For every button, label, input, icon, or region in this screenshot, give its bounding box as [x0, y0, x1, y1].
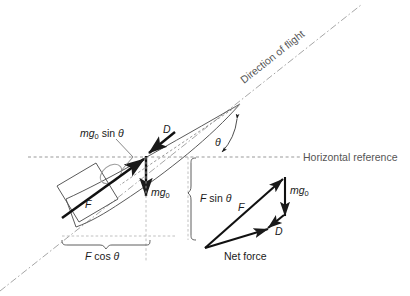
force-diagram-figure: Direction of flight Horizontal reference…	[0, 0, 410, 296]
f-cos-theta-cos: cos	[91, 250, 113, 262]
svg-text:F sin θ: F sin θ	[200, 192, 232, 204]
horizontal-reference-label: Horizontal reference	[303, 151, 398, 163]
brace-horizontal-icon	[62, 240, 150, 249]
mg-sin-theta-label: mg0 sin θ	[80, 127, 124, 141]
svg-text:Horizontal reference: Horizontal reference	[303, 151, 398, 163]
f-sin-theta-sin: sin	[206, 192, 225, 204]
thrust-label: F	[85, 198, 92, 210]
svg-text:Net force: Net force	[224, 250, 267, 262]
net-force-text: Net force	[224, 250, 267, 262]
svg-text:F: F	[238, 201, 245, 213]
net-weight-mg: mg	[290, 184, 305, 196]
mg-sin-theta-sin: sin	[99, 127, 118, 139]
drag-label: D	[163, 123, 171, 135]
weight-subscript: 0	[166, 191, 170, 200]
horizontal-reference-text: Horizontal reference	[303, 151, 398, 163]
thrust-vector-F	[62, 159, 144, 218]
svg-text:D: D	[163, 123, 171, 135]
f-sin-theta-theta: θ	[226, 192, 232, 204]
weight-mg: mg	[151, 186, 166, 198]
mg-sin-theta-theta: θ	[118, 127, 124, 139]
net-force-triangle	[205, 177, 285, 248]
diagram-canvas: Direction of flight Horizontal reference…	[0, 0, 410, 296]
svg-text:F: F	[85, 198, 92, 210]
svg-text:mg0 sin θ: mg0 sin θ	[80, 127, 124, 141]
angle-arc-icon	[222, 119, 237, 152]
net-force-weight-label: mg0	[290, 184, 309, 198]
angle-theta-label: θ	[215, 136, 221, 148]
net-thrust-text: F	[238, 201, 245, 213]
brace-vertical-icon	[188, 158, 196, 240]
svg-text:mg0: mg0	[151, 186, 170, 200]
net-force-label: Net force	[224, 250, 267, 262]
f-sin-theta-label: F sin θ	[200, 192, 232, 204]
svg-text:mg0: mg0	[290, 184, 309, 198]
net-force-drag-label: D	[275, 225, 283, 237]
net-weight-subscript: 0	[305, 189, 309, 198]
svg-text:D: D	[275, 225, 283, 237]
net-force-thrust-label: F	[238, 201, 245, 213]
f-cos-theta-label: F cos θ	[85, 250, 120, 262]
mg-sin-theta-leader	[116, 139, 133, 172]
flight-path-line	[0, 5, 361, 291]
net-drag-text: D	[275, 225, 283, 237]
mg-sin-theta-m: mg	[80, 127, 95, 139]
svg-text:F cos θ: F cos θ	[85, 250, 120, 262]
f-cos-theta-theta: θ	[114, 250, 120, 262]
svg-text:θ: θ	[215, 136, 221, 148]
weight-label: mg0	[151, 186, 170, 200]
drag-text: D	[163, 123, 171, 135]
thrust-text: F	[85, 198, 92, 210]
angle-theta-text: θ	[215, 136, 221, 148]
